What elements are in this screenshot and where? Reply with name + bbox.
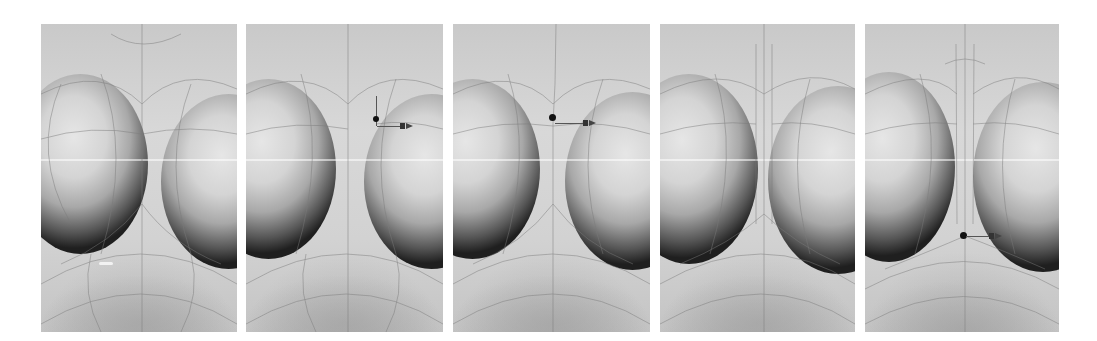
gizmo-x-axis[interactable] bbox=[555, 123, 585, 124]
gizmo-x-arrow[interactable] bbox=[589, 120, 596, 126]
gizmo-pivot[interactable] bbox=[373, 116, 379, 122]
gizmo-pivot[interactable] bbox=[549, 114, 556, 121]
gizmo-scale-handle[interactable] bbox=[583, 120, 588, 126]
gizmo-x-axis[interactable] bbox=[377, 126, 401, 127]
viewport-panel-2 bbox=[246, 24, 443, 332]
wireframe-overlay bbox=[865, 24, 1059, 332]
wireframe-overlay bbox=[41, 24, 237, 332]
viewport-panel-3 bbox=[453, 24, 650, 332]
wireframe-overlay bbox=[453, 24, 650, 332]
wireframe-overlay bbox=[246, 24, 443, 332]
cursor-marker bbox=[99, 262, 113, 265]
wireframe-overlay bbox=[660, 24, 855, 332]
viewport-panel-1 bbox=[41, 24, 237, 332]
gizmo-x-arrow[interactable] bbox=[995, 233, 1002, 239]
gizmo-scale-handle[interactable] bbox=[989, 233, 994, 239]
gizmo-scale-handle[interactable] bbox=[400, 123, 405, 129]
move-gizmo[interactable] bbox=[960, 232, 1020, 252]
move-gizmo[interactable] bbox=[549, 114, 609, 134]
move-gizmo[interactable] bbox=[372, 96, 432, 136]
viewport-sequence bbox=[0, 0, 1097, 341]
gizmo-x-arrow[interactable] bbox=[406, 123, 413, 129]
viewport-panel-4 bbox=[660, 24, 855, 332]
gizmo-x-axis[interactable] bbox=[966, 236, 991, 237]
viewport-panel-5 bbox=[865, 24, 1059, 332]
